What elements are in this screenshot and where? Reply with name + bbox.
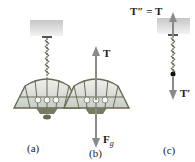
panel-a: (a)	[0, 0, 65, 162]
tension-double-prime-label: T″ = T	[130, 6, 162, 17]
lamp-free-body-diagram	[65, 0, 135, 162]
tension-label: T	[103, 48, 110, 59]
caption-a: (a)	[27, 143, 39, 154]
downward-force-arrow-icon	[169, 77, 177, 100]
chain-icon	[171, 36, 175, 73]
lamp-on-ceiling-illustration	[0, 0, 65, 162]
gravity-label-main: F	[103, 133, 110, 145]
ceiling-block	[30, 20, 63, 38]
gravity-label: Fg	[103, 134, 114, 145]
panel-b: T Fg (b)	[65, 0, 135, 162]
tension-prime-label: T′	[180, 88, 190, 99]
chain-free-body-diagram	[135, 0, 195, 162]
caption-b: (b)	[89, 148, 102, 159]
attachment-point-icon	[171, 72, 176, 77]
caption-c: (c)	[163, 145, 175, 156]
chain-icon	[45, 38, 49, 76]
gravity-label-sub: g	[110, 139, 114, 148]
panel-c: T″ = T T′ (c)	[135, 0, 195, 162]
